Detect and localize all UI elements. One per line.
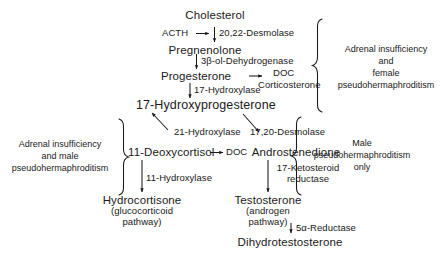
caption-bottom-right-line3: only [306, 162, 418, 174]
caption-top-right: Adrenal insufficiency and female pseudoh… [330, 44, 442, 92]
steroid-biosynthesis-diagram: Cholesterol ACTH 20,22-Desmolase Pregnen… [0, 0, 445, 265]
metabolite-cholesterol: Cholesterol [170, 9, 260, 21]
metabolite-progesterone: Progesterone [143, 70, 249, 82]
caption-top-right-line2: and [330, 56, 442, 68]
hydrocortisone-pathway-line1: (glucocorticoid [92, 206, 192, 216]
caption-left-line2: and male [3, 151, 117, 163]
metabolite-corticosterone: Corticosterone [258, 80, 320, 90]
caption-bottom-right-line2: pseudohermaphroditism [306, 150, 418, 162]
enzyme-11-hydroxylase: 11-Hydroxylase [146, 173, 212, 183]
caption-bottom-right-line1: Male [306, 138, 418, 150]
caption-left: Adrenal insufficiency and male pseudoher… [3, 139, 117, 175]
testosterone-pathway-line1: (androgen [222, 206, 314, 216]
label-acth: ACTH [162, 28, 188, 38]
metabolite-doc-upper: DOC [273, 68, 294, 78]
metabolite-doc-lower: DOC [226, 147, 247, 157]
caption-bottom-right: Male pseudohermaphroditism only [306, 138, 418, 174]
brace-top-right [313, 19, 323, 112]
metabolite-11-deoxycortisol: 11-Deoxycortisol [128, 146, 212, 158]
arrow-17ohp-deoxycortisol [152, 113, 168, 130]
metabolite-dihydrotestosterone: Dihydrotestosterone [215, 236, 365, 248]
caption-left-line3: pseudohermaphroditism [3, 163, 117, 175]
caption-top-right-line1: Adrenal insufficiency [330, 44, 442, 56]
enzyme-21-hydroxylase: 21-Hydroxylase [174, 127, 241, 137]
caption-left-line1: Adrenal insufficiency [3, 139, 117, 151]
enzyme-17-ketosteroid-reductase-line2: reductase [272, 174, 344, 184]
caption-top-right-line3: female [330, 68, 442, 80]
metabolite-17-hydroxyprogesterone: 17-Hydroxyprogesterone [136, 99, 270, 113]
enzyme-5-alpha-reductase: 5α-Reductase [296, 223, 356, 233]
enzyme-17-hydroxylase: 17-Hydroxylase [194, 85, 261, 95]
enzyme-3b-ol-dehydrogenase: 3β-ol-Dehydrogenase [201, 56, 294, 66]
caption-top-right-line4: pseudohermaphroditism [330, 80, 442, 92]
enzyme-20-22-desmolase: 20,22-Desmolase [219, 28, 294, 38]
enzyme-17-20-desmolase: 17,20-Desmolase [250, 127, 325, 137]
hydrocortisone-pathway-line2: pathway) [92, 217, 192, 227]
